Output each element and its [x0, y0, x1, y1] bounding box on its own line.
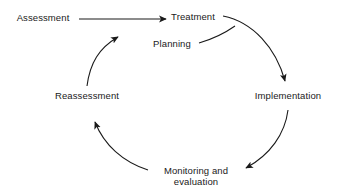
node-label-treatment: Treatment — [169, 12, 217, 23]
node-label-reassessment: Reassessment — [53, 91, 121, 102]
node-label-planning: Planning — [151, 39, 193, 50]
arc-reassessment-to-planning — [87, 37, 118, 86]
arc-planning-to-treatment — [199, 26, 235, 43]
arc-implementation-to-monitoring — [246, 110, 288, 168]
node-label-monitoring-and-evaluation: Monitoring and evaluation — [157, 166, 235, 187]
arc-treatment-to-implementation — [223, 16, 285, 81]
node-label-monitoring-line-2: evaluation — [159, 176, 233, 187]
cycle-diagram: Assessment Treatment Implementation Moni… — [0, 0, 338, 196]
node-label-monitoring-line-1: Monitoring and — [159, 166, 233, 177]
arc-monitoring-to-reassessment — [95, 122, 148, 170]
node-label-implementation: Implementation — [253, 91, 323, 102]
node-label-assessment: Assessment — [15, 13, 72, 24]
